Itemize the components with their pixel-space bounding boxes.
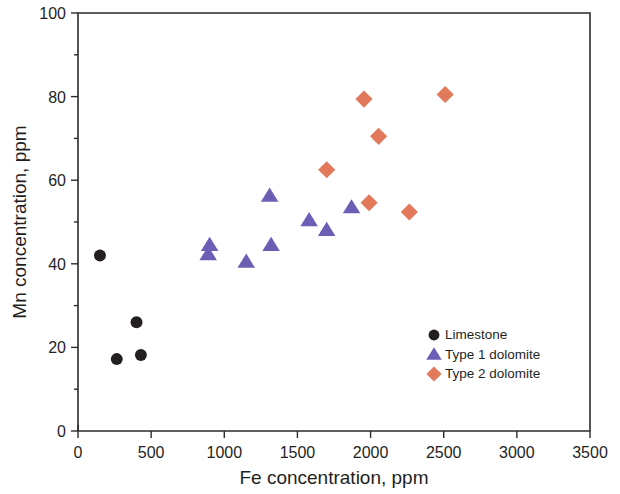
x-tick-label-1000: 1000 bbox=[206, 444, 242, 461]
data-point-circle-1 bbox=[131, 316, 143, 328]
y-tick-label-20: 20 bbox=[48, 339, 66, 356]
x-axis-title: Fe concentration, ppm bbox=[239, 467, 428, 488]
x-tick-label-3000: 3000 bbox=[499, 444, 535, 461]
x-tick-label-1500: 1500 bbox=[280, 444, 316, 461]
data-point-circle-2 bbox=[111, 353, 123, 365]
y-axis-title: Mn concentration, ppm bbox=[9, 125, 30, 318]
legend-label-1: Type 1 dolomite bbox=[445, 347, 540, 362]
legend-label-2: Type 2 dolomite bbox=[445, 366, 540, 381]
data-point-circle-3 bbox=[135, 349, 147, 361]
figure-background bbox=[0, 0, 620, 494]
y-tick-label-80: 80 bbox=[48, 89, 66, 106]
scatter-plot-figure: 020406080100 050010001500200025003000350… bbox=[0, 0, 620, 494]
y-tick-label-40: 40 bbox=[48, 256, 66, 273]
x-tick-label-2500: 2500 bbox=[426, 444, 462, 461]
x-tick-label-500: 500 bbox=[138, 444, 165, 461]
data-point-circle-0 bbox=[94, 249, 106, 261]
legend-label-0: Limestone bbox=[445, 327, 507, 342]
y-tick-label-0: 0 bbox=[57, 423, 66, 440]
x-tick-label-2000: 2000 bbox=[353, 444, 389, 461]
x-tick-label-0: 0 bbox=[74, 444, 83, 461]
y-tick-label-60: 60 bbox=[48, 172, 66, 189]
legend-marker-0 bbox=[429, 330, 440, 341]
y-tick-label-100: 100 bbox=[39, 5, 66, 22]
x-tick-label-3500: 3500 bbox=[572, 444, 608, 461]
